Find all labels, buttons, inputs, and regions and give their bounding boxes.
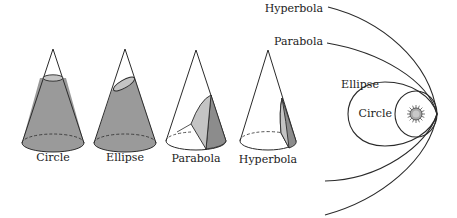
cone-label-hyperbola: Hyperbola	[239, 153, 298, 166]
sun-icon	[407, 105, 425, 123]
cone-label-circle: Circle	[36, 151, 69, 164]
cone-hyperbola	[240, 50, 296, 150]
cone-label-ellipse: Ellipse	[106, 151, 144, 164]
orbit-label-ellipse: Ellipse	[341, 78, 379, 91]
orbit-label-hyperbola: Hyperbola	[265, 2, 324, 15]
cone-ellipse	[94, 49, 156, 152]
orbit-label-parabola: Parabola	[274, 35, 323, 48]
cone-label-parabola: Parabola	[171, 152, 220, 165]
cone-parabola	[166, 50, 226, 150]
cone-circle	[22, 49, 84, 152]
conic-sections-diagram: Circle Ellipse Parabola Hyperbola	[0, 0, 457, 218]
orbit-label-circle: Circle	[359, 107, 392, 120]
